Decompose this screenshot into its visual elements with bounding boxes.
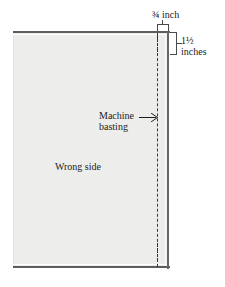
machine-basting-line xyxy=(157,33,158,267)
arrow-right-icon xyxy=(151,113,158,122)
dimension-label-right: 1½ inches xyxy=(181,35,207,57)
fabric-bottom-edge xyxy=(13,266,170,268)
fabric-right-edge xyxy=(167,31,169,269)
machine-basting-label-line1: Machine xyxy=(99,110,134,121)
dimension-label-right-line2: inches xyxy=(181,46,207,57)
fabric-top-edge-highlight xyxy=(13,34,170,35)
diagram-canvas: ¾ inch 1½ inches Machine basting Wrong s… xyxy=(0,0,225,287)
fabric-panel xyxy=(13,33,168,268)
fabric-top-edge xyxy=(13,31,170,33)
dimension-leader-top xyxy=(162,20,163,25)
fabric-right-edge-highlight xyxy=(165,34,166,265)
dimension-label-right-line1: 1½ xyxy=(181,35,207,46)
fabric-bottom-edge-highlight xyxy=(13,264,170,265)
fabric-left-edge xyxy=(13,33,14,268)
machine-basting-line-bottom-stitches xyxy=(157,243,158,261)
machine-basting-label-line2: basting xyxy=(99,121,134,132)
machine-basting-label: Machine basting xyxy=(99,110,134,132)
dimension-bracket-top xyxy=(157,24,169,31)
wrong-side-label: Wrong side xyxy=(55,161,101,172)
machine-basting-line-top-stitches xyxy=(157,36,158,54)
dimension-label-top: ¾ inch xyxy=(152,9,179,20)
dimension-bracket-right xyxy=(170,32,177,55)
